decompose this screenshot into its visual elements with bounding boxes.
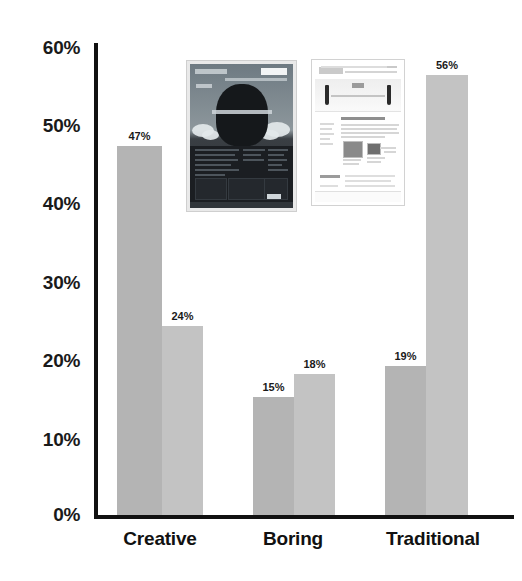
mock-table-row [345, 175, 395, 177]
y-axis-tick-30: 30% [0, 273, 80, 292]
mock-footer [190, 202, 293, 208]
bar-boring-1 [253, 397, 294, 515]
mock-nav-links [225, 78, 287, 81]
creative-screenshot-content [190, 64, 293, 208]
mock-silhouette-head [216, 84, 268, 146]
mock-sidebar-link [320, 133, 334, 135]
mock-text-column [243, 149, 265, 164]
mock-subtitle [196, 84, 212, 88]
bar-creative-2 [162, 326, 203, 515]
mock-logo [319, 67, 343, 74]
bar-value-traditional-1: 19% [385, 351, 426, 362]
mock-product-bottle [387, 85, 391, 105]
plot-area: 47% 24% 15% 18% 19% 56% [98, 43, 514, 515]
y-axis-tick-60: 60% [0, 38, 80, 57]
mock-nav-links [345, 71, 397, 73]
mock-sidebar-link [320, 128, 332, 130]
mock-product-bottle [325, 85, 329, 105]
mock-hero-text [331, 95, 385, 97]
y-axis-tick-50: 50% [0, 116, 80, 135]
mock-paragraph-line [341, 124, 399, 126]
mock-sidebar-link [320, 138, 330, 140]
mock-logo [195, 69, 227, 74]
mock-cta-button [267, 194, 281, 199]
x-axis-line [94, 515, 514, 519]
bar-traditional-1 [385, 366, 426, 515]
mock-table-row [320, 185, 338, 187]
mock-body-section [190, 146, 293, 208]
mock-photo [343, 141, 363, 158]
bar-chart: 60% 50% 40% 30% 20% 10% 0% 47% 24% 15% 1… [0, 0, 522, 581]
traditional-website-screenshot [311, 59, 405, 206]
y-axis-tick-20: 20% [0, 351, 80, 370]
mock-caption-line [343, 159, 361, 161]
mock-caption-line [343, 163, 359, 165]
mock-sidebar-link [320, 123, 334, 125]
mock-table-row [345, 185, 395, 187]
traditional-screenshot-content [315, 63, 401, 202]
bar-value-creative-1: 47% [117, 131, 162, 142]
mock-tagline [212, 110, 272, 114]
mock-paragraph-line [341, 132, 399, 134]
mock-hero-title [352, 83, 364, 88]
mock-footer-text [321, 66, 387, 68]
mock-caption-line [384, 151, 396, 153]
bar-value-creative-2: 24% [162, 311, 203, 322]
bar-value-traditional-2: 56% [426, 60, 468, 71]
mock-text-column [195, 149, 239, 179]
x-axis-label-boring: Boring [228, 528, 358, 551]
mock-text-column [268, 149, 288, 174]
y-axis-tick-40: 40% [0, 194, 80, 213]
mock-section-title [320, 175, 340, 178]
y-axis-tick-0: 0% [0, 505, 80, 524]
mock-paragraph-line [341, 128, 397, 130]
mock-paragraph-line [341, 136, 385, 138]
mock-panel [228, 178, 266, 200]
bar-traditional-2 [426, 75, 468, 515]
bar-creative-1 [117, 146, 162, 515]
bar-value-boring-2: 18% [294, 359, 335, 370]
bar-value-boring-1: 15% [253, 382, 294, 393]
mock-table-row [345, 180, 391, 182]
x-axis-label-traditional: Traditional [358, 528, 508, 551]
mock-caption-line [367, 161, 381, 163]
creative-website-screenshot [186, 60, 297, 212]
mock-caption-line [380, 147, 396, 149]
mock-panel [195, 178, 227, 200]
mock-footer [315, 191, 401, 202]
mock-sidebar-link [320, 143, 333, 145]
mock-nav-button [261, 68, 287, 75]
bar-boring-2 [294, 374, 335, 515]
x-axis-label-creative: Creative [95, 528, 225, 551]
mock-section-title [341, 117, 385, 120]
mock-photo [367, 143, 381, 155]
mock-caption-line [367, 157, 385, 159]
y-axis-tick-10: 10% [0, 430, 80, 449]
